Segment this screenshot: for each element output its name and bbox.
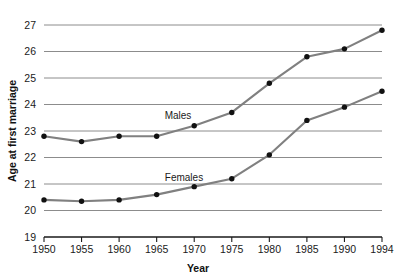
data-point-marker — [342, 46, 347, 51]
x-tick-label: 1950 — [32, 243, 56, 255]
y-tick-label: 22 — [24, 151, 36, 163]
data-point-marker — [79, 139, 84, 144]
x-tick-label: 1994 — [370, 243, 394, 255]
y-tick-label: 26 — [24, 45, 36, 57]
series-label-females: Females — [165, 172, 203, 183]
data-point-marker — [192, 123, 197, 128]
data-point-marker — [304, 118, 309, 123]
x-tick-label: 1955 — [70, 243, 94, 255]
y-axis-tick-labels: 192021222324252627 — [24, 19, 36, 243]
data-point-marker — [116, 197, 121, 202]
data-point-marker — [267, 81, 272, 86]
y-tick-label: 23 — [24, 125, 36, 137]
y-tick-label: 19 — [24, 231, 36, 243]
chart-canvas: 192021222324252627 195019551960196519701… — [0, 0, 396, 278]
y-tick-label: 20 — [24, 204, 36, 216]
data-point-marker — [192, 184, 197, 189]
x-tick-label: 1970 — [183, 243, 207, 255]
data-point-marker — [229, 176, 234, 181]
data-point-marker — [154, 192, 159, 197]
x-axis-title: Year — [187, 262, 209, 274]
y-tick-label: 25 — [24, 72, 36, 84]
series-label-males: Males — [165, 110, 192, 121]
data-point-marker — [154, 134, 159, 139]
y-tick-label: 24 — [24, 98, 36, 110]
x-tick-label: 1985 — [295, 243, 319, 255]
data-point-marker — [304, 54, 309, 59]
x-tick-label: 1975 — [220, 243, 244, 255]
data-point-marker — [267, 152, 272, 157]
x-tick-label: 1960 — [107, 243, 131, 255]
data-point-marker — [379, 28, 384, 33]
y-axis-title: Age at first marriage — [6, 80, 18, 182]
data-point-marker — [41, 134, 46, 139]
data-point-marker — [229, 110, 234, 115]
x-tick-label: 1980 — [258, 243, 282, 255]
data-point-marker — [342, 104, 347, 109]
line-chart: 192021222324252627 195019551960196519701… — [0, 0, 396, 278]
x-tick-label: 1990 — [333, 243, 357, 255]
x-tick-label: 1965 — [145, 243, 169, 255]
data-point-marker — [116, 134, 121, 139]
data-point-marker — [41, 197, 46, 202]
y-tick-label: 27 — [24, 19, 36, 31]
data-point-marker — [79, 199, 84, 204]
y-tick-label: 21 — [24, 178, 36, 190]
data-point-marker — [379, 89, 384, 94]
